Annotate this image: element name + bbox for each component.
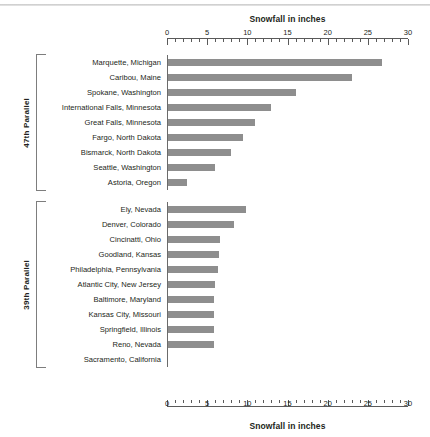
chart-row: Atlantic City, New Jersey [0,277,430,292]
top-axis-title: Snowfall in inches [167,14,408,24]
bar-track [167,100,408,115]
category-label: Baltimore, Maryland [48,292,161,307]
category-label: Atlantic City, New Jersey [48,277,161,292]
chart-row: Marquette, Michigan [0,55,430,70]
axis-tick-label: 5 [205,28,209,37]
chart-row: Sacramento, California [0,352,430,367]
major-tick [368,39,369,45]
category-label: Cincinatti, Ohio [48,232,161,247]
bar [167,311,214,318]
bar-track [167,70,408,85]
bar-track [167,337,408,352]
bar [167,59,382,66]
chart-row: Baltimore, Maryland [0,292,430,307]
chart-row: Kansas City, Missouri [0,307,430,322]
bar-track [167,202,408,217]
minor-tick [199,39,200,42]
minor-tick [312,39,313,42]
top-axis-ruler [167,38,408,45]
bar [167,251,219,258]
bar-track [167,175,408,190]
bar [167,104,271,111]
bar-track [167,307,408,322]
minor-tick [175,39,176,42]
value-axis-baseline [167,55,168,190]
major-tick [207,39,208,45]
axis-tick-label: 10 [243,28,251,37]
minor-tick [255,39,256,42]
bar-track [167,130,408,145]
bar-track [167,262,408,277]
chart-row: Reno, Nevada [0,337,430,352]
chart-row: Denver, Colorado [0,217,430,232]
axis-tick-label: 0 [165,28,169,37]
bar [167,296,214,303]
chart-row: Spokane, Washington [0,85,430,100]
chart-row: Philadelphia, Pennsylvania [0,262,430,277]
minor-tick [239,39,240,42]
minor-tick [215,39,216,42]
major-tick [408,39,409,45]
axis-tick-label: 25 [364,399,372,408]
minor-tick [360,39,361,42]
minor-tick [352,39,353,42]
bar [167,281,215,288]
chart-row: Caribou, Maine [0,70,430,85]
bar-track [167,85,408,100]
axis-tick-label: 20 [323,28,331,37]
category-label: Denver, Colorado [48,217,161,232]
chart-row: Springfield, Illinois [0,322,430,337]
value-axis-baseline [167,202,168,367]
axis-tick-label: 15 [283,28,291,37]
axis-tick-label: 5 [205,399,209,408]
axis-tick-label: 30 [404,399,412,408]
axis-tick-label: 0 [165,399,169,408]
bar-track [167,247,408,262]
bar [167,74,352,81]
chart-row: Cincinatti, Ohio [0,232,430,247]
bottom-axis-scale: 051015202530 [167,390,408,406]
top-axis-tick-labels: 051015202530 [167,28,408,37]
group-39th-parallel: 39th Parallel Ely, NevadaDenver, Colorad… [0,199,430,370]
category-label: International Falls, Minnesota [48,100,161,115]
snowfall-bar-chart: Snowfall in inches 051015202530 47th Par… [0,0,430,437]
bar [167,266,218,273]
bar-track [167,322,408,337]
minor-tick [320,39,321,42]
bar-track [167,115,408,130]
bar-track [167,352,408,367]
chart-row: Goodland, Kansas [0,247,430,262]
bar [167,221,234,228]
bar [167,206,246,213]
group-47th-parallel: 47th Parallel Marquette, MichiganCaribou… [0,52,430,193]
category-label: Reno, Nevada [48,337,161,352]
category-label: Caribou, Maine [48,70,161,85]
axis-tick-label: 25 [364,28,372,37]
bottom-axis-tick-labels: 051015202530 [167,399,408,408]
minor-tick [384,39,385,42]
major-tick [247,39,248,45]
minor-tick [279,39,280,42]
category-label: Sacramento, California [48,352,161,367]
minor-tick [400,39,401,42]
bar [167,341,214,348]
axis-tick-label: 15 [283,399,291,408]
minor-tick [271,39,272,42]
bar [167,179,187,186]
bar-track [167,292,408,307]
bar-track [167,55,408,70]
minor-tick [191,39,192,42]
bar-track [167,160,408,175]
bottom-axis-title: Snowfall in inches [167,421,408,431]
category-label: Philadelphia, Pennsylvania [48,262,161,277]
bar-track [167,232,408,247]
axis-tick-label: 10 [243,399,251,408]
minor-tick [304,39,305,42]
category-label: Spokane, Washington [48,85,161,100]
category-label: Marquette, Michigan [48,55,161,70]
chart-row: Ely, Nevada [0,202,430,217]
bar-track [167,277,408,292]
minor-tick [336,39,337,42]
category-label: Great Falls, Minnesota [48,115,161,130]
category-label: Bismarck, North Dakota [48,145,161,160]
